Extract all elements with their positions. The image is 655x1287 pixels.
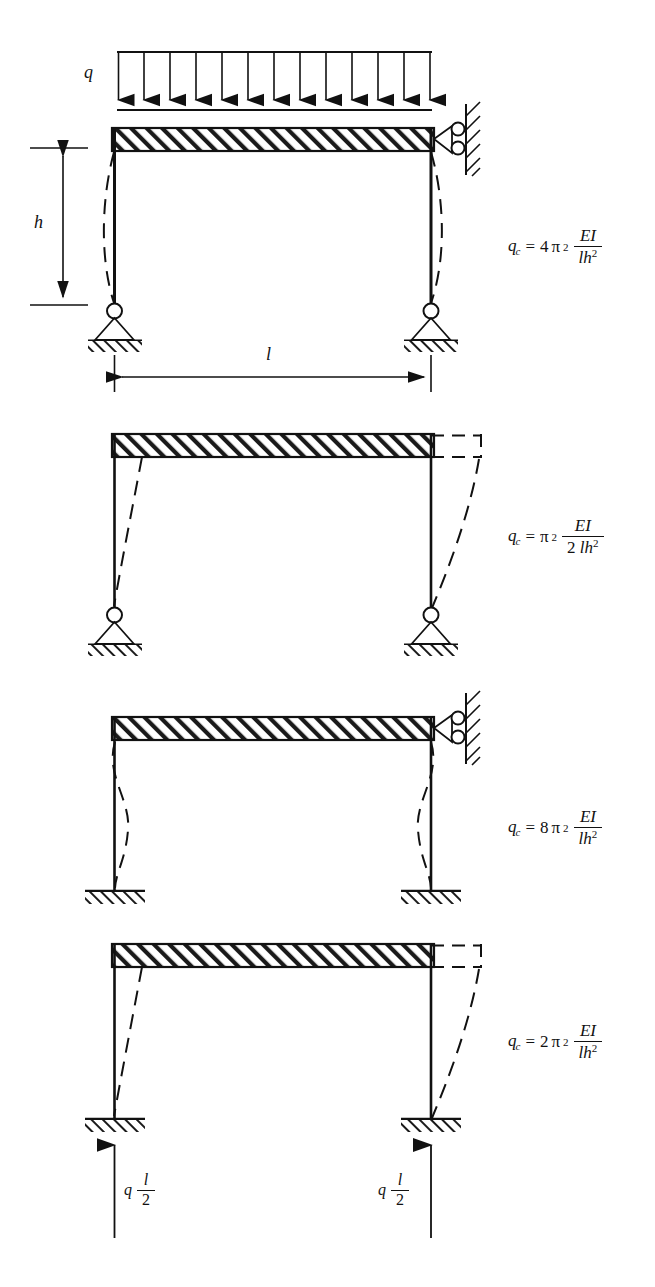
formula-2-pi-exp: 2 [552,531,558,543]
case-4-beam [112,944,434,967]
case-3-right-fixed-support [401,891,461,904]
case-1-right-pin-support [404,304,458,353]
reaction-label-left: q l 2 [124,1172,157,1209]
formula-1-pi-exp: 2 [563,241,569,253]
formula-2-den-h-exp: 2 [593,537,599,549]
formula-2-den-h: h [585,538,594,557]
formula-1-fraction: EI lh2 [574,227,603,266]
reaction-label-right: q l 2 [378,1172,411,1209]
case-3-beam [112,717,434,740]
formula-1-den-h-exp: 2 [592,247,598,259]
formula-2-equals: = [523,527,537,547]
formula-2-fraction: EI 2 lh2 [562,517,603,556]
case-1-right-buckle [431,152,442,303]
formula-2-lhs-sub: c [516,535,521,547]
case-2-group [88,434,482,656]
case-4-left-buckle [114,967,142,1116]
span-dimension-l [115,355,432,392]
formula-2-den-prefix: 2 [567,538,576,557]
formula-4-numerator: EI [575,1022,601,1041]
frames-drawing [0,0,655,1287]
case-2-right-buckle [432,459,479,608]
formula-case-4: qc = 2π2 EI lh2 [508,1022,604,1061]
formula-4-pi: π [551,1032,560,1052]
formula-1-numerator: EI [575,227,601,246]
formula-2-numerator: EI [570,517,596,536]
formula-3-pi-exp: 2 [563,822,569,834]
case-4-right-buckle [432,969,479,1118]
formula-4-equals: = [523,1032,537,1052]
case-3-roller-support [434,691,480,765]
case-1-beam [112,128,434,151]
formula-3-numerator: EI [575,808,601,827]
formula-1-pi: π [551,237,560,257]
case-1-group [30,52,480,392]
case-1-left-pin-support [88,304,142,353]
distributed-load-q [117,52,432,110]
reaction-left-numerator: l [139,1172,153,1190]
case-4-displaced-beam [431,944,482,968]
reaction-right-symbol: q [378,1181,386,1199]
formula-3-den-h: h [583,829,592,848]
height-label-h: h [34,212,43,233]
formula-1-coefficient: 4 [540,237,549,257]
case-3-left-fixed-support [85,891,145,904]
case-1-left-buckle [104,152,114,303]
case-1-roller-support [434,102,480,176]
reaction-left-symbol: q [124,1181,132,1199]
formula-4-pi-exp: 2 [563,1036,569,1048]
case-2-displaced-beam [431,434,482,458]
formula-4-den-h: h [583,1043,592,1062]
reaction-right-fraction: l 2 [391,1172,409,1209]
figure-sheet: q h l qc = 4π2 EI lh2 qc = π2 EI 2 lh2 q… [0,0,655,1287]
formula-case-2: qc = π2 EI 2 lh2 [508,517,606,556]
formula-1-lhs-sub: c [516,245,521,257]
reaction-left-denominator: 2 [137,1190,155,1209]
case-2-left-pin-support [88,608,142,657]
formula-4-lhs-sub: c [516,1040,521,1052]
formula-2-pi: π [540,527,549,547]
case-2-beam [112,434,434,457]
formula-3-fraction: EI lh2 [574,808,603,847]
case-4-right-fixed-support [401,1119,461,1132]
formula-3-lhs-sub: c [516,826,521,838]
case-3-group [85,691,480,904]
formula-4-fraction: EI lh2 [574,1022,603,1061]
formula-1-equals: = [523,237,537,257]
reaction-right-numerator: l [393,1172,407,1190]
formula-4-den-h-exp: 2 [592,1042,598,1054]
formula-case-1: qc = 4π2 EI lh2 [508,227,604,266]
formula-3-pi: π [551,818,560,838]
formula-3-den-h-exp: 2 [592,828,598,840]
case-2-left-buckle [114,457,142,606]
case-2-right-pin-support [404,608,458,657]
formula-4-coefficient: 2 [540,1032,549,1052]
formula-3-coefficient: 8 [540,818,549,838]
reaction-left-fraction: l 2 [137,1172,155,1209]
formula-1-den-h: h [583,248,592,267]
span-label-l: l [266,344,271,365]
load-label-q: q [84,62,93,83]
reaction-right-denominator: 2 [391,1190,409,1209]
formula-case-3: qc = 8π2 EI lh2 [508,808,604,847]
formula-3-equals: = [523,818,537,838]
case-4-left-fixed-support [85,1119,145,1132]
